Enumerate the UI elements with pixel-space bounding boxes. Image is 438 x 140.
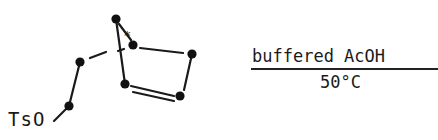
reagent-label: buffered AcOH xyxy=(252,46,385,66)
reaction-line xyxy=(251,68,438,70)
tso-label: TsO xyxy=(8,108,45,130)
conditions-label: 50°C xyxy=(320,72,361,92)
stereo-marker: * xyxy=(124,28,131,43)
atoms xyxy=(64,14,196,110)
molecule-structure: * xyxy=(0,0,438,140)
